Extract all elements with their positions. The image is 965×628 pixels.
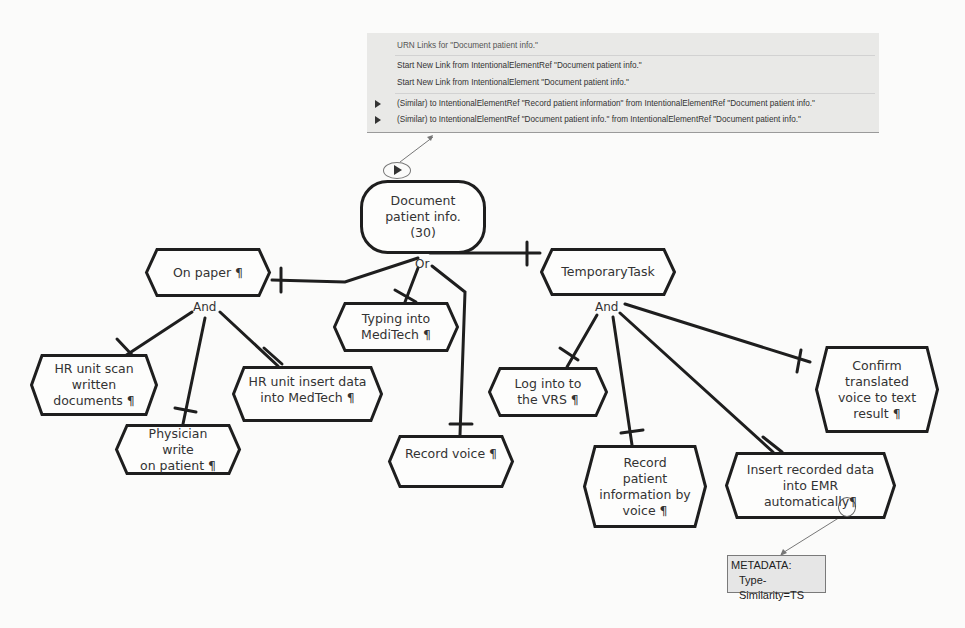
task-label: Record voice ¶: [389, 446, 513, 462]
goal-document-patient-info[interactable]: Document patient info. (30): [360, 180, 486, 254]
task-hr-unit-insert[interactable]: HR unit insert data into MedTech ¶: [232, 366, 383, 422]
task-label: Typing into MediTech ¶: [345, 311, 447, 343]
task-label: Confirm translated voice to text result …: [822, 358, 932, 422]
task-insert-recorded-data-emr[interactable]: Insert recorded data into EMR automatica…: [725, 452, 896, 519]
metadata-value: Type-Similarity=TS: [731, 573, 822, 603]
task-typing-into-meditech[interactable]: Typing into MediTech ¶: [333, 302, 459, 352]
task-temporary-task[interactable]: TemporaryTask: [540, 248, 676, 296]
decomposition-and-label: And: [595, 300, 618, 314]
task-label: Log into to the VRS ¶: [499, 376, 598, 408]
link-onpaper-hrscan: [125, 312, 192, 356]
task-record-voice[interactable]: Record voice ¶: [388, 435, 514, 488]
link-onpaper-physician: [183, 318, 205, 424]
task-on-paper[interactable]: On paper ¶: [145, 248, 271, 297]
menu-divider: [395, 93, 875, 94]
metadata-pointer-line: [781, 514, 845, 554]
task-label: Physician write on patient ¶: [115, 426, 241, 474]
link-goal-onpaper: [272, 258, 418, 282]
hexagon-shape: [388, 435, 514, 488]
task-label: HR unit insert data into MedTech ¶: [232, 374, 382, 406]
decomposition-or-label: Or: [415, 257, 429, 271]
link-tt-logvrs: [567, 315, 597, 367]
menu-item-start-link-element[interactable]: Start New Link from IntentionalElement "…: [397, 78, 629, 87]
task-hr-unit-scan[interactable]: HR unit scan written documents ¶: [30, 354, 158, 416]
link-tt-confirm: [625, 304, 810, 362]
task-label: TemporaryTask: [545, 264, 670, 280]
menu-item-start-link-elementref[interactable]: Start New Link from IntentionalElementRe…: [397, 61, 642, 70]
task-label: Insert recorded data into EMR automatica…: [731, 462, 891, 510]
link-tt-recordpatient: [613, 317, 632, 445]
metadata-heading: METADATA:: [731, 558, 822, 573]
menu-item-similar-record-patient[interactable]: (Similar) to IntentionalElementRef "Reco…: [397, 99, 815, 108]
metadata-box: METADATA: Type-Similarity=TS: [727, 555, 826, 593]
urn-links-menu: URN Links for "Document patient info." S…: [367, 33, 879, 133]
task-label: HR unit scan written documents ¶: [37, 361, 151, 409]
task-confirm-translated-voice[interactable]: Confirm translated voice to text result …: [815, 346, 939, 433]
task-label: Record patient information by voice ¶: [583, 455, 706, 519]
menu-divider: [395, 55, 875, 56]
link-onpaper-hrinsert: [220, 312, 278, 366]
menu-item-similar-document-patient[interactable]: (Similar) to IntentionalElementRef "Docu…: [397, 115, 801, 124]
menu-pointer-line: [400, 137, 433, 162]
play-icon[interactable]: [383, 162, 411, 179]
task-physician-write[interactable]: Physician write on patient ¶: [115, 424, 241, 475]
task-label: On paper ¶: [157, 265, 259, 281]
goal-label: Document patient info. (30): [375, 193, 471, 241]
menu-title: URN Links for "Document patient info.": [397, 41, 538, 50]
task-record-patient-info-by-voice[interactable]: Record patient information by voice ¶: [583, 445, 707, 528]
task-log-into-vrs[interactable]: Log into to the VRS ¶: [488, 367, 608, 417]
decomposition-and-label: And: [193, 300, 216, 314]
